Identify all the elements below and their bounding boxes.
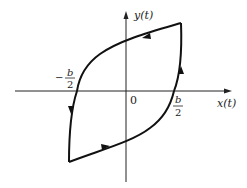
tick-negative-numerator: b (67, 67, 73, 78)
x-axis-label: x(t) (217, 97, 236, 110)
tick-label-negative-b-half: − b 2 (55, 67, 75, 90)
x-axis (15, 89, 232, 94)
right-side (174, 23, 181, 91)
tick-label-positive-b-half: b 2 (173, 94, 183, 118)
y-axis (124, 11, 129, 182)
tick-negative-denominator: 2 (67, 79, 73, 90)
hysteresis-diagram: y(t) x(t) 0 b 2 − b 2 (0, 0, 247, 188)
y-axis-arrow-icon (124, 11, 129, 19)
lower-branch (69, 91, 174, 162)
origin-label: 0 (130, 94, 137, 107)
tick-negative-sign: − (55, 72, 63, 83)
tick-positive-denominator: 2 (175, 107, 181, 118)
upper-branch (77, 23, 181, 91)
y-axis-label: y(t) (133, 9, 153, 22)
x-axis-arrow-icon (224, 89, 232, 94)
left-side (69, 91, 77, 162)
hysteresis-loop (69, 23, 181, 162)
tick-positive-numerator: b (175, 94, 181, 105)
